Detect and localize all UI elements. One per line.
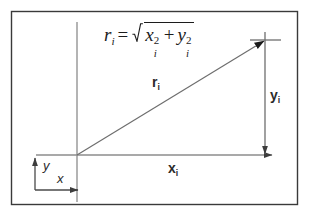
label-x-component-base: x (168, 160, 176, 176)
formula-radicand: x2i+y2i (144, 22, 194, 46)
formula-term1-subscript: i (154, 47, 157, 59)
label-x-component-subscript: i (176, 168, 178, 178)
label-y-component: yi (270, 88, 280, 102)
formula-lhs-subscript: i (111, 35, 114, 47)
label-radius-subscript: i (157, 82, 159, 92)
label-axis-y: y (43, 159, 50, 172)
label-y-component-subscript: i (278, 95, 280, 105)
formula-equals-sign: = (115, 24, 133, 45)
formula-term2-variable: y (177, 24, 185, 45)
square-root-icon (132, 23, 143, 42)
formula-radical: x2i+y2i (132, 22, 194, 46)
figure-root: ri=x2i+y2i ri xi yi x y (0, 0, 309, 217)
formula-radius-definition: ri=x2i+y2i (104, 22, 194, 46)
formula-term2-subscript: i (186, 47, 189, 59)
label-y-component-base: y (270, 87, 278, 103)
label-radius: ri (152, 75, 160, 89)
label-axis-x: x (57, 172, 64, 185)
formula-term2-exponent: 2 (186, 34, 192, 46)
formula-term1-variable: x (145, 24, 153, 45)
label-x-component: xi (168, 161, 178, 175)
formula-term1-exponent: 2 (154, 34, 160, 46)
